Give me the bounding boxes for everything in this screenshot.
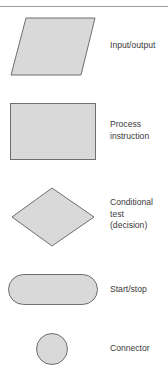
label-line: Process (110, 119, 149, 131)
label-line: Start/stop (110, 284, 147, 296)
process-rectangle-icon (11, 104, 96, 160)
label-input-output: Input/output (110, 40, 155, 52)
label-connector: Connector (110, 343, 150, 355)
connector-circle-icon (37, 334, 68, 365)
label-line: (decision) (110, 220, 153, 232)
label-start-stop: Start/stop (110, 284, 147, 296)
label-line: Input/output (110, 40, 155, 52)
decision-diamond-icon (12, 188, 94, 246)
label-process-instruction: Process instruction (110, 119, 149, 142)
label-line: test (110, 209, 153, 221)
start-stop-terminal-icon (9, 275, 98, 305)
flowchart-symbols (0, 0, 168, 377)
input-output-parallelogram-icon (11, 18, 95, 75)
label-conditional-test: Conditional test (decision) (110, 197, 153, 232)
label-line: instruction (110, 131, 149, 143)
label-line: Conditional (110, 197, 153, 209)
label-line: Connector (110, 343, 150, 355)
